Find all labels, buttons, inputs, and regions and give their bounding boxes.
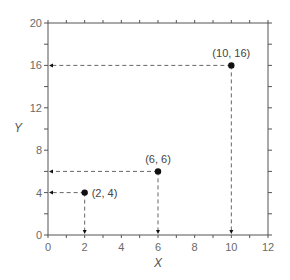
y-tick-label: 16 <box>30 59 42 71</box>
arrowhead-icon <box>49 63 53 67</box>
x-axis-title: X <box>153 256 163 270</box>
scatter-chart: 024681012048121620 (2, 4)(6, 6)(10, 16) … <box>0 0 290 280</box>
data-points: (2, 4)(6, 6)(10, 16) <box>81 47 250 198</box>
arrowhead-icon <box>229 230 233 234</box>
arrowhead-icon <box>49 191 53 195</box>
x-tick-label: 0 <box>45 241 51 253</box>
point-label: (6, 6) <box>145 153 171 165</box>
data-point <box>81 189 87 195</box>
x-tick-label: 6 <box>155 241 161 253</box>
point-label: (10, 16) <box>212 47 250 59</box>
y-axis-title: Y <box>14 121 23 135</box>
y-tick-label: 0 <box>36 229 42 241</box>
y-tick-label: 8 <box>36 144 42 156</box>
x-tick-label: 4 <box>118 241 124 253</box>
x-tick-label: 12 <box>262 241 274 253</box>
x-tick-label: 8 <box>192 241 198 253</box>
point-label: (2, 4) <box>92 187 118 199</box>
x-tick-label: 2 <box>82 241 88 253</box>
x-tick-label: 10 <box>225 241 237 253</box>
y-tick-label: 4 <box>36 187 42 199</box>
arrowhead-icon <box>49 169 53 173</box>
y-tick-label: 12 <box>30 102 42 114</box>
projection-lines <box>49 63 233 234</box>
arrowhead-icon <box>156 230 160 234</box>
arrowhead-icon <box>83 230 87 234</box>
data-point <box>155 168 161 174</box>
y-tick-label: 20 <box>30 17 42 29</box>
data-point <box>228 62 234 68</box>
